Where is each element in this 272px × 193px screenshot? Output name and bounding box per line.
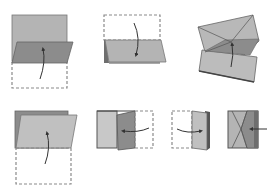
step-4-fold-up bbox=[15, 111, 77, 184]
folded-flap bbox=[105, 40, 166, 62]
step-3-envelope bbox=[198, 15, 259, 82]
step-6-fold-right bbox=[172, 111, 210, 150]
step-1-fold-up bbox=[12, 15, 73, 88]
step-2-fold-down bbox=[104, 15, 166, 63]
dashed-outline bbox=[16, 148, 71, 184]
dashed-outline bbox=[104, 15, 160, 40]
folded-flap bbox=[16, 115, 77, 148]
folded-flap bbox=[117, 111, 135, 150]
step-5-fold-left bbox=[97, 111, 153, 150]
folded-flap bbox=[12, 42, 73, 63]
left-panel bbox=[97, 111, 117, 148]
folded-flap bbox=[192, 111, 207, 150]
dashed-outline bbox=[172, 111, 192, 148]
folding-diagram bbox=[0, 0, 272, 193]
step-7-push-in bbox=[228, 111, 267, 148]
dashed-outline bbox=[12, 61, 67, 88]
